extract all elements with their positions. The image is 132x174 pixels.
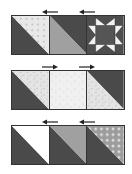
- hst-block: [86, 126, 124, 164]
- hst-block: [86, 71, 124, 109]
- sawtooth-star-block: [86, 16, 124, 54]
- plain-square-block: [49, 71, 87, 109]
- hst-block: [12, 126, 49, 164]
- hst-block: [12, 71, 49, 109]
- quilt-row-2: [11, 70, 125, 110]
- hst-block: [12, 16, 49, 54]
- hst-block: [49, 16, 87, 54]
- hst-block: [49, 126, 87, 164]
- quilt-row-3: [11, 125, 125, 165]
- quilt-row-1: [11, 15, 125, 55]
